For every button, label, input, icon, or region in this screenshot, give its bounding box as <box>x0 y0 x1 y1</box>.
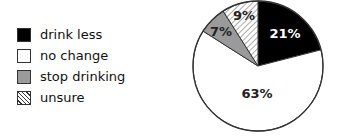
slice-label-stop-drinking: 7% <box>210 24 232 39</box>
slice-label-no-change: 63% <box>241 86 272 101</box>
slice-label-drink-less: 21% <box>269 26 300 41</box>
slice-label-unsure: 9% <box>233 8 255 23</box>
pie-chart: 21% 63% 7% 9% <box>0 0 340 137</box>
pie-slices <box>193 1 323 131</box>
